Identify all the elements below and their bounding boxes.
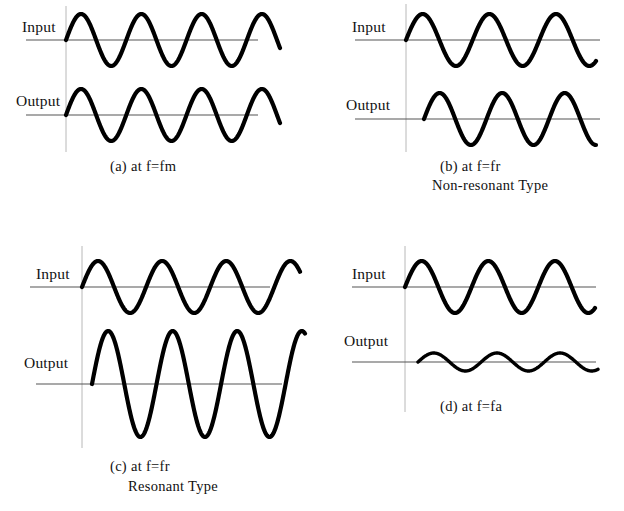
panel-d-plot	[330, 240, 624, 420]
waveform-figure: Input Output (a) at f=fm Input Output (b…	[0, 0, 624, 511]
panel-d: Input Output (d) at f=fa	[0, 0, 624, 511]
panel-d-caption-line1: (d) at f=fa	[440, 398, 502, 415]
